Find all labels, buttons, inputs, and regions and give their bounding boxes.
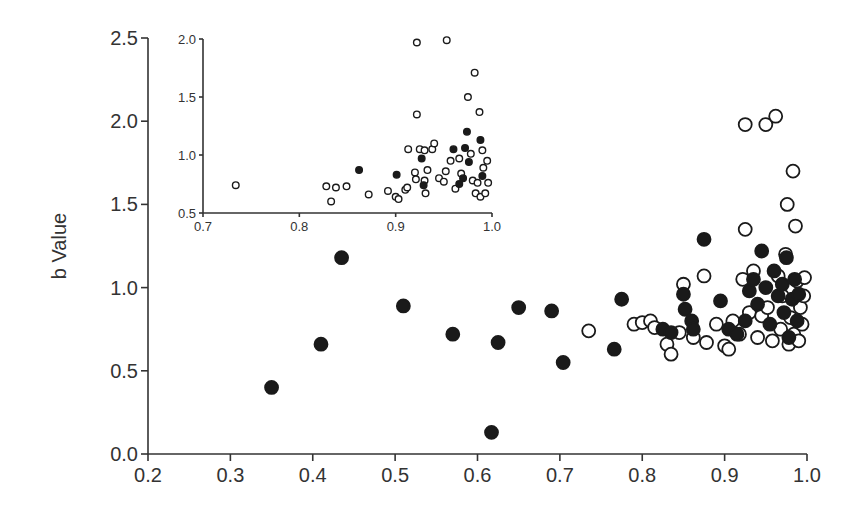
filled-data-point	[314, 338, 327, 351]
open-data-point	[343, 183, 350, 190]
open-data-point	[739, 118, 752, 131]
filled-data-point	[512, 301, 525, 314]
open-data-point	[484, 158, 491, 165]
filled-data-point	[698, 233, 711, 246]
filled-data-point	[393, 171, 400, 178]
open-data-point	[722, 343, 735, 356]
filled-data-point	[780, 251, 793, 264]
open-data-point	[424, 167, 431, 174]
filled-data-point	[335, 251, 348, 264]
filled-data-point	[730, 328, 743, 341]
x-tick-label: 1.0	[793, 464, 821, 486]
open-data-point	[414, 111, 421, 118]
filled-data-point	[479, 173, 486, 180]
open-data-point	[405, 146, 412, 153]
main-plot: 0.20.30.40.50.60.70.80.91.00.00.51.01.52…	[48, 27, 821, 486]
open-data-point	[751, 331, 764, 344]
y-tick-label: 1.5	[178, 90, 196, 105]
filled-data-point	[545, 304, 558, 317]
filled-data-point	[782, 331, 795, 344]
filled-data-point	[759, 281, 772, 294]
inset-plot: 0.70.80.91.00.51.01.52.0	[178, 32, 501, 234]
y-tick-label: 2.5	[110, 27, 138, 49]
y-tick-label: 0.5	[178, 206, 196, 221]
open-data-point	[456, 155, 463, 162]
open-data-point	[421, 147, 428, 154]
filled-data-point	[615, 293, 628, 306]
open-data-point	[328, 198, 335, 205]
filled-data-point	[755, 244, 768, 257]
x-tick-label: 0.3	[216, 464, 244, 486]
filled-data-point	[608, 343, 621, 356]
filled-data-point	[739, 314, 752, 327]
x-tick-label: 0.7	[194, 219, 212, 234]
x-tick-label: 1.0	[483, 219, 501, 234]
x-tick-label: 0.2	[134, 464, 162, 486]
open-data-point	[710, 318, 723, 331]
filled-data-point	[677, 288, 690, 301]
open-data-point	[412, 169, 419, 176]
open-data-point	[442, 168, 449, 175]
y-tick-label: 2.0	[110, 110, 138, 132]
y-axis-label: b Value	[48, 213, 70, 279]
open-data-point	[582, 324, 595, 337]
open-data-point	[413, 176, 420, 183]
filled-data-point	[450, 146, 457, 153]
filled-data-point	[492, 336, 505, 349]
open-data-point	[447, 158, 454, 165]
x-tick-label: 0.7	[546, 464, 574, 486]
open-data-point	[766, 334, 779, 347]
open-data-point	[333, 184, 340, 191]
filled-data-point	[265, 381, 278, 394]
x-tick-label: 0.9	[387, 219, 405, 234]
filled-data-point	[397, 299, 410, 312]
x-tick-label: 0.9	[711, 464, 739, 486]
open-data-point	[323, 183, 330, 190]
open-data-point	[479, 147, 486, 154]
filled-data-point	[687, 323, 700, 336]
open-data-point	[471, 69, 478, 76]
filled-data-point	[420, 182, 427, 189]
filled-data-point	[356, 167, 363, 174]
inset-data-points	[232, 37, 491, 205]
scatter-chart: 0.20.30.40.50.60.70.80.91.00.00.51.01.52…	[0, 0, 868, 520]
open-data-point	[769, 110, 782, 123]
main-data-points	[265, 110, 811, 439]
open-data-point	[404, 184, 411, 191]
x-tick-label: 0.8	[290, 219, 308, 234]
open-data-point	[395, 196, 402, 203]
open-data-point	[789, 220, 802, 233]
inset-axes: 0.70.80.91.00.51.01.52.0	[178, 32, 501, 234]
filled-data-point	[418, 155, 425, 162]
filled-data-point	[477, 137, 484, 144]
open-data-point	[365, 191, 372, 198]
filled-data-point	[747, 273, 760, 286]
open-data-point	[480, 164, 487, 171]
filled-data-point	[776, 278, 789, 291]
open-data-point	[468, 151, 475, 158]
filled-data-point	[462, 145, 469, 152]
open-data-point	[232, 182, 239, 189]
filled-data-point	[557, 356, 570, 369]
y-tick-label: 0.0	[110, 443, 138, 465]
open-data-point	[476, 109, 483, 116]
y-tick-label: 2.0	[178, 32, 196, 47]
filled-data-point	[466, 159, 473, 166]
open-data-point	[431, 140, 438, 147]
filled-data-point	[768, 264, 781, 277]
filled-data-point	[460, 175, 467, 182]
filled-data-point	[665, 326, 678, 339]
open-data-point	[786, 165, 799, 178]
open-data-point	[739, 223, 752, 236]
open-data-point	[474, 180, 481, 187]
open-data-point	[700, 336, 713, 349]
open-data-point	[414, 39, 421, 46]
open-data-point	[443, 37, 450, 44]
open-data-point	[465, 94, 472, 101]
filled-data-point	[792, 288, 805, 301]
x-tick-label: 0.4	[299, 464, 327, 486]
open-data-point	[385, 188, 392, 195]
x-tick-label: 0.5	[381, 464, 409, 486]
filled-data-point	[791, 314, 804, 327]
open-data-point	[781, 198, 794, 211]
